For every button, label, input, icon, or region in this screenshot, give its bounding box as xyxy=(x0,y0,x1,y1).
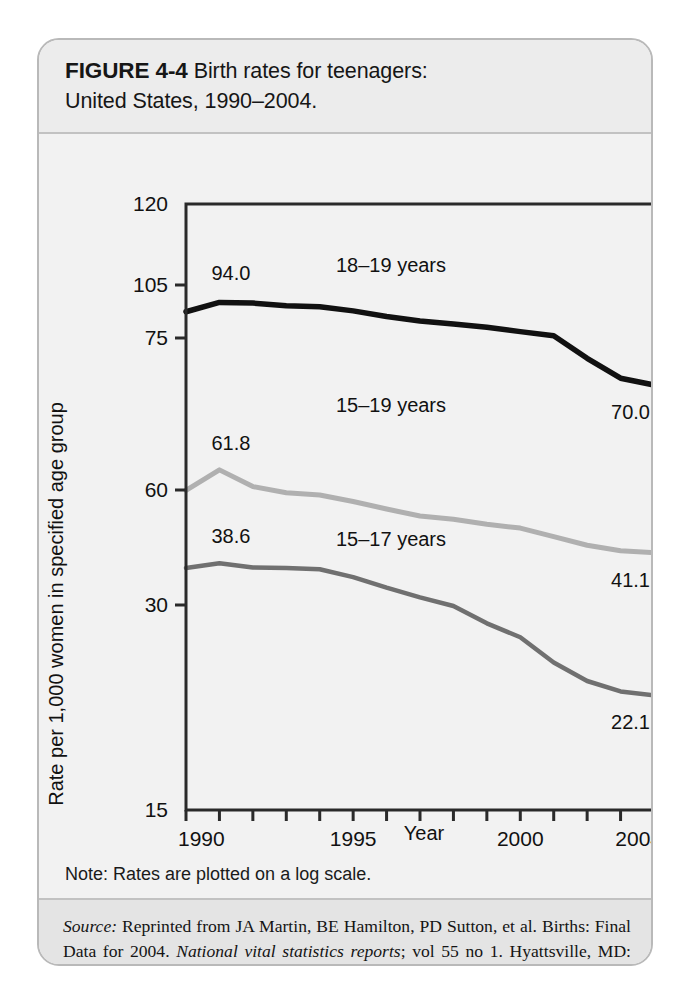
source-journal: National vital statistics reports xyxy=(176,941,401,961)
chart-region: 15306075105120 1990199520002004 94.070.0… xyxy=(39,134,651,874)
series-inline-label: 15–17 years xyxy=(336,528,446,550)
figure-title-line1: Birth rates for teenagers: xyxy=(194,59,428,83)
y-tick-label: 30 xyxy=(145,593,168,616)
y-tick-label: 105 xyxy=(133,273,168,296)
figure-source-block: Source: Reprinted from JA Martin, BE Ham… xyxy=(39,898,651,964)
plot-series-group xyxy=(186,302,651,695)
y-axis-ticks: 15306075105120 xyxy=(133,192,186,821)
series-line-2 xyxy=(186,563,651,695)
y-tick-label: 120 xyxy=(133,192,168,215)
x-axis-title: Year xyxy=(404,822,445,844)
series-line-0 xyxy=(186,302,651,385)
figure-title-line2: United States, 1990–2004. xyxy=(65,89,317,113)
y-axis-title: Rate per 1,000 women in specified age gr… xyxy=(45,402,67,806)
figure-card: FIGURE 4-4 Birth rates for teenagers: Un… xyxy=(37,38,653,966)
series-end-value: 22.1 xyxy=(611,711,650,733)
x-tick-label: 1995 xyxy=(330,827,377,850)
figure-title: FIGURE 4-4 Birth rates for teenagers: Un… xyxy=(65,56,635,116)
y-tick-label: 75 xyxy=(145,326,168,349)
figure-note: Note: Rates are plotted on a log scale. xyxy=(65,864,371,885)
chart-annotations: 94.070.018–19 years61.841.115–19 years38… xyxy=(211,254,650,733)
x-tick-label: 2000 xyxy=(497,827,544,850)
line-chart: 15306075105120 1990199520002004 94.070.0… xyxy=(39,134,651,874)
series-end-value: 70.0 xyxy=(611,401,650,423)
figure-note-block: Note: Rates are plotted on a log scale. xyxy=(39,858,651,898)
y-tick-label: 15 xyxy=(145,798,168,821)
series-inline-label: 18–19 years xyxy=(336,254,446,276)
x-tick-label: 2004 xyxy=(615,827,651,850)
plot-border xyxy=(186,204,651,810)
y-tick-label: 60 xyxy=(145,478,168,501)
series-start-value: 94.0 xyxy=(211,262,250,284)
plot-frame xyxy=(186,204,651,810)
series-inline-label: 15–19 years xyxy=(336,394,446,416)
series-end-value: 41.1 xyxy=(611,569,650,591)
series-start-value: 38.6 xyxy=(211,525,250,547)
figure-number: FIGURE 4-4 xyxy=(65,58,188,83)
x-tick-label: 1990 xyxy=(178,827,225,850)
series-start-value: 61.8 xyxy=(211,432,250,454)
figure-title-block: FIGURE 4-4 Birth rates for teenagers: Un… xyxy=(39,40,651,134)
figure-source: Source: Reprinted from JA Martin, BE Ham… xyxy=(63,914,631,966)
source-prefix: Source: xyxy=(63,916,117,936)
